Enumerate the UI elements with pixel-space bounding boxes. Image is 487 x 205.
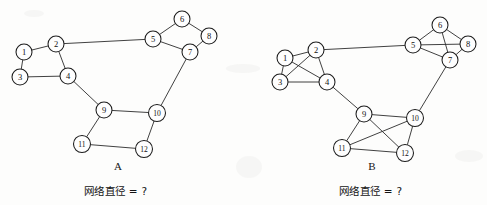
graph-node: 4 bbox=[319, 74, 335, 90]
graph-edge bbox=[324, 45, 405, 49]
node-circle bbox=[460, 36, 476, 52]
graph-edge bbox=[32, 46, 48, 50]
graph-node: 7 bbox=[442, 52, 458, 68]
node-circle bbox=[432, 17, 448, 33]
graph-node: 11 bbox=[334, 140, 351, 157]
graph-edge bbox=[419, 67, 445, 111]
graph-edge bbox=[161, 42, 183, 50]
graph-node: 10 bbox=[407, 110, 424, 127]
graph-edge bbox=[87, 117, 100, 137]
graph-node: 8 bbox=[201, 28, 217, 44]
graph-edge bbox=[333, 87, 358, 109]
graph-edge bbox=[28, 76, 60, 77]
graph-edge bbox=[59, 51, 65, 68]
graph-edge bbox=[189, 23, 202, 31]
graph-edge bbox=[421, 44, 460, 45]
node-circle bbox=[405, 37, 421, 53]
graph-edge bbox=[319, 58, 325, 75]
node-circle bbox=[60, 68, 76, 84]
graph-node: 6 bbox=[432, 17, 448, 33]
graph-edge bbox=[350, 121, 407, 145]
graph-edge bbox=[293, 52, 309, 56]
graph-edge bbox=[160, 24, 176, 35]
graph-edge bbox=[196, 41, 203, 47]
graph-node: 12 bbox=[397, 145, 414, 162]
graph-node: 2 bbox=[308, 42, 324, 58]
graph-edge bbox=[292, 62, 320, 78]
node-circle bbox=[74, 136, 91, 153]
network-graphs-svg: 123456789101112 123456789101112 A B bbox=[0, 0, 487, 205]
graph-edge bbox=[21, 60, 22, 69]
graph-edge bbox=[419, 30, 433, 40]
graph-edge bbox=[90, 145, 135, 149]
panel-label-a: A bbox=[114, 160, 122, 172]
node-circle bbox=[174, 11, 190, 27]
node-circle bbox=[16, 44, 32, 60]
graph-edge bbox=[420, 48, 442, 57]
graph-node: 1 bbox=[277, 50, 293, 66]
graph-node: 9 bbox=[96, 102, 112, 118]
graph-a-nodes: 123456789101112 bbox=[12, 11, 217, 158]
node-circle bbox=[442, 52, 458, 68]
caption-b: 网络直径 = ? bbox=[339, 183, 402, 198]
graph-node: 7 bbox=[182, 44, 198, 60]
graph-node: 5 bbox=[145, 31, 161, 47]
figure-canvas: 123456789101112 123456789101112 A B 网络直径… bbox=[0, 0, 487, 205]
panel-label-b: B bbox=[368, 160, 375, 172]
node-circle bbox=[136, 141, 153, 158]
graph-node: 5 bbox=[405, 37, 421, 53]
node-circle bbox=[272, 74, 288, 90]
graph-node: 11 bbox=[74, 136, 91, 153]
graph-node: 12 bbox=[136, 141, 153, 158]
graph-edge bbox=[161, 59, 186, 105]
graph-node: 3 bbox=[272, 74, 288, 90]
node-circle bbox=[356, 106, 372, 122]
node-circle bbox=[334, 140, 351, 157]
node-circle bbox=[407, 110, 424, 127]
graph-edge bbox=[456, 49, 462, 54]
graph-edge bbox=[112, 110, 149, 112]
graph-edge bbox=[350, 149, 396, 153]
graph-node: 10 bbox=[149, 105, 166, 122]
node-circle bbox=[182, 44, 198, 60]
graph-node: 3 bbox=[12, 69, 28, 85]
graph-node: 6 bbox=[174, 11, 190, 27]
node-circle bbox=[48, 36, 64, 52]
graph-node: 2 bbox=[48, 36, 64, 52]
caption-a: 网络直径 = ? bbox=[84, 183, 147, 198]
graph-edge bbox=[64, 39, 145, 43]
graph-edge bbox=[347, 121, 360, 141]
node-circle bbox=[12, 69, 28, 85]
graph-b-nodes: 123456789101112 bbox=[272, 17, 476, 162]
graph-edge bbox=[74, 81, 98, 104]
node-circle bbox=[277, 50, 293, 66]
node-circle bbox=[201, 28, 217, 44]
graph-node: 9 bbox=[356, 106, 372, 122]
graph-edge bbox=[282, 66, 284, 74]
graph-edge bbox=[372, 115, 407, 118]
graph-node: 1 bbox=[16, 44, 32, 60]
node-circle bbox=[145, 31, 161, 47]
graph-edge bbox=[407, 126, 412, 145]
node-circle bbox=[308, 42, 324, 58]
node-circle bbox=[96, 102, 112, 118]
graph-node: 8 bbox=[460, 36, 476, 52]
graph-edge bbox=[442, 33, 448, 53]
graph-edge bbox=[147, 121, 154, 141]
graph-edge bbox=[447, 29, 462, 39]
node-circle bbox=[149, 105, 166, 122]
graph-node: 4 bbox=[60, 68, 76, 84]
node-circle bbox=[397, 145, 414, 162]
graph-edge bbox=[370, 120, 399, 148]
node-circle bbox=[319, 74, 335, 90]
